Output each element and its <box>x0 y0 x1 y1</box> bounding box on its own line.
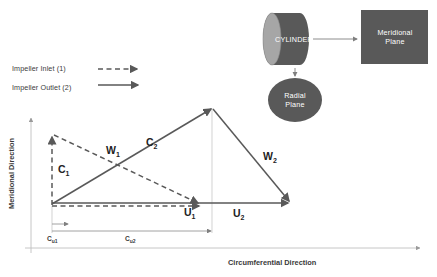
label-w1: W1 <box>106 144 120 158</box>
label-c1-base: C <box>58 163 66 175</box>
y-axis-title-text: Meridional Direction <box>8 137 17 208</box>
meridional-plane-label: Meridional Plane <box>366 28 424 46</box>
label-c1-sub: 1 <box>66 170 70 177</box>
label-w2-sub: 2 <box>273 157 277 164</box>
radial-plane-label: Radial Plane <box>272 91 318 109</box>
vector-w2 <box>213 109 289 201</box>
label-cu2-sub: u2 <box>130 238 136 244</box>
label-u2-sub: 2 <box>241 214 245 221</box>
label-u1-sub: 1 <box>192 213 196 220</box>
y-axis-title: Meridional Direction <box>5 130 19 216</box>
label-cu1: Cu1 <box>47 235 58 244</box>
vector-c2 <box>52 109 211 204</box>
vector-w1 <box>54 135 198 203</box>
cylinder-label: CYLINDER <box>272 35 316 44</box>
label-w1-base: W <box>106 144 116 156</box>
x-axis-title: Circumferential Direction <box>228 258 316 267</box>
label-c2-sub: 2 <box>154 143 158 150</box>
diagram-canvas: Impeller Inlet (1) Impeller Outlet (2) M… <box>0 0 437 277</box>
label-c2: C2 <box>146 136 158 150</box>
label-cu1-sub: u1 <box>52 238 58 244</box>
label-c1: C1 <box>58 163 70 177</box>
label-u2: U2 <box>233 207 245 221</box>
inlet-velocity-triangle <box>52 135 199 206</box>
label-w2-base: W <box>263 150 273 162</box>
legend-item-outlet: Impeller Outlet (2) <box>12 79 162 95</box>
legend: Impeller Inlet (1) Impeller Outlet (2) <box>12 60 162 98</box>
label-u1: U1 <box>184 206 196 220</box>
label-c2-base: C <box>146 136 154 148</box>
label-w2: W2 <box>263 150 277 164</box>
label-w1-sub: 1 <box>116 151 120 158</box>
label-u1-base: U <box>184 206 192 218</box>
legend-item-inlet: Impeller Inlet (1) <box>12 60 162 76</box>
legend-label-inlet: Impeller Inlet (1) <box>12 64 98 73</box>
label-cu2: Cu2 <box>125 235 136 244</box>
legend-label-outlet: Impeller Outlet (2) <box>12 83 98 92</box>
label-u2-base: U <box>233 207 241 219</box>
